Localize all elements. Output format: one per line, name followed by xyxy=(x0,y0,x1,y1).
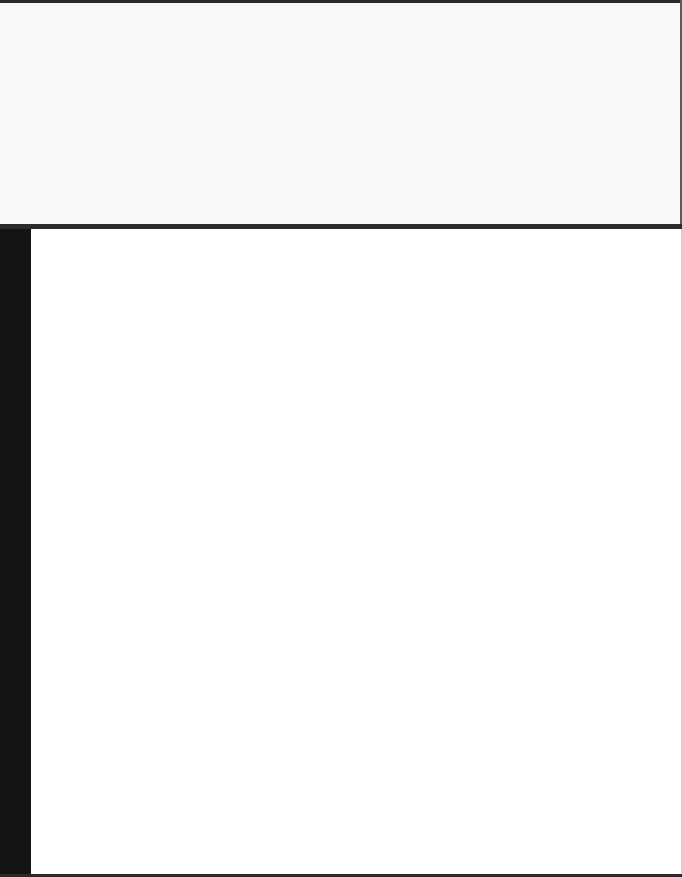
main-content-area xyxy=(31,229,682,874)
blank-page xyxy=(0,0,682,877)
top-panel xyxy=(0,3,682,224)
left-dark-bar xyxy=(0,229,31,877)
